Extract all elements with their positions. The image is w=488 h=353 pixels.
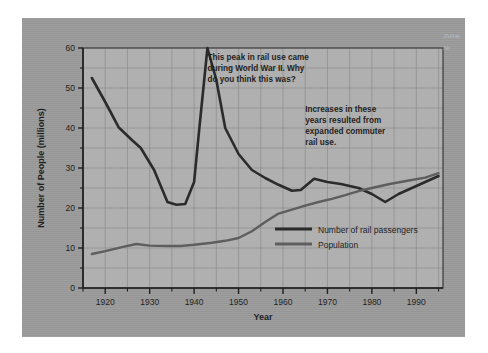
legend-label-rail-passengers: Number of rail passengers <box>318 225 418 235</box>
annotation-line: This peak in rail use came <box>207 53 309 62</box>
y-axis-title: Number of People (millions) <box>36 108 46 228</box>
y-tick-label: 0 <box>70 283 75 293</box>
y-tick-label: 30 <box>66 163 76 173</box>
annotation-line: rail use. <box>305 138 336 147</box>
x-axis-title: Year <box>253 312 273 322</box>
annotation-line: during World War II. Why <box>207 64 304 73</box>
x-tick-label: 1950 <box>229 297 248 307</box>
x-tick-label: 1960 <box>274 297 293 307</box>
y-tick-label: 40 <box>66 123 76 133</box>
x-tick-label: 1980 <box>362 297 381 307</box>
y-tick-label: 10 <box>66 243 76 253</box>
x-tick-label: 1940 <box>185 297 204 307</box>
x-tick-label: 1920 <box>96 297 115 307</box>
page-edge-text-fragment: Th Po in Ne <box>443 30 463 54</box>
x-axis-ticks <box>83 288 439 294</box>
annotation-line: expanded commuter <box>305 127 386 136</box>
legend-label-population: Population <box>318 240 358 250</box>
x-axis-tick-labels: 19201930194019501960197019801990 <box>96 297 426 307</box>
annotation-wwii-peak-note: This peak in rail use cameduring World W… <box>207 53 309 84</box>
annotation-line: do you think this was? <box>207 75 295 84</box>
y-tick-label: 50 <box>66 83 76 93</box>
y-axis-tick-labels: 0102030405060 <box>66 43 76 293</box>
rail-passengers-population-line-chart: 0102030405060 19201930194019501960197019… <box>22 18 465 337</box>
y-tick-label: 20 <box>66 203 76 213</box>
annotation-line: Increases in these <box>305 105 376 114</box>
x-tick-label: 1930 <box>140 297 159 307</box>
x-tick-label: 1990 <box>407 297 426 307</box>
annotation-line: years resulted from <box>305 116 381 125</box>
y-tick-label: 60 <box>66 43 76 53</box>
figure-panel: 0102030405060 19201930194019501960197019… <box>22 18 465 337</box>
x-tick-label: 1970 <box>318 297 337 307</box>
